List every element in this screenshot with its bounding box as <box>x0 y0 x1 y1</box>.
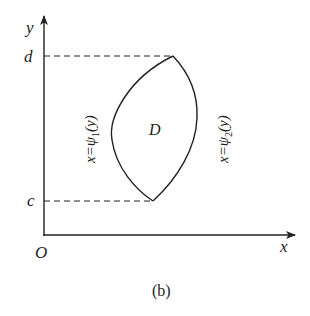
figure-caption: (b) <box>152 282 171 300</box>
upper-bound-label-d: d <box>24 47 33 66</box>
right-curve-equation-prefix: x=ψ <box>215 136 231 164</box>
x-axis-label: x <box>279 237 288 256</box>
left-curve-equation-suffix: (y) <box>82 115 99 132</box>
right-curve-equation-suffix: (y) <box>215 115 232 132</box>
region-label-D: D <box>148 121 161 138</box>
left-curve-equation: x=ψ1(y) <box>82 115 101 164</box>
right-curve-equation: x=ψ2(y) <box>215 115 234 164</box>
svg-text:x=ψ2(y): x=ψ2(y) <box>215 115 234 164</box>
y-axis-label: y <box>24 18 34 37</box>
svg-text:x=ψ1(y): x=ψ1(y) <box>82 115 101 164</box>
left-curve-equation-prefix: x=ψ <box>82 136 98 164</box>
origin-label: O <box>35 243 47 262</box>
double-integral-region-diagram: y x O d c D x=ψ1(y) x=ψ2(y) (b) <box>0 0 310 316</box>
lower-bound-label-c: c <box>27 191 35 210</box>
left-boundary-curve-psi1 <box>112 56 173 201</box>
